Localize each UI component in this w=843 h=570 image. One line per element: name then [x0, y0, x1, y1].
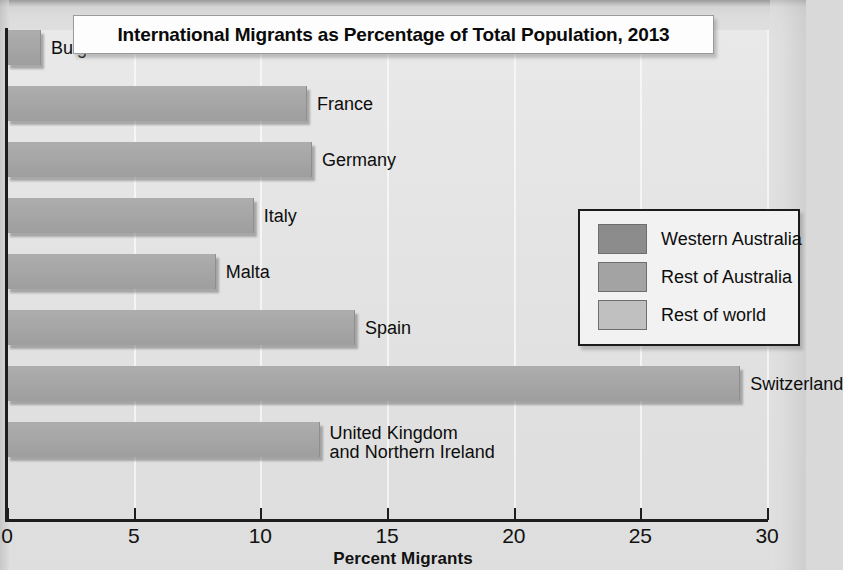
legend-swatch-3 [598, 300, 647, 330]
bar-label-germany: Germany [322, 151, 396, 170]
bar-spain [7, 310, 355, 345]
bar-label-malta: Malta [226, 263, 270, 282]
x-tick-15 [387, 508, 389, 520]
bar-label-united-kingdom-and-northern-ireland: United Kingdom and Northern Ireland [330, 424, 495, 462]
page-title: International Migrants as Percentage of … [117, 24, 669, 46]
gridline-20 [514, 30, 516, 520]
bar-label-spain: Spain [365, 319, 411, 338]
bar-united-kingdom-and-northern-ireland [7, 422, 320, 457]
legend-label-3: Rest of world [661, 305, 766, 326]
x-tick-25 [640, 508, 642, 520]
x-tick-label-20: 20 [502, 524, 525, 548]
x-tick-5 [134, 508, 136, 520]
bar-label-switzerland: Switzerland [750, 375, 843, 394]
x-axis-title: Percent Migrants [0, 549, 806, 569]
legend-label-1: Western Australia [661, 229, 802, 250]
x-tick-10 [260, 508, 262, 520]
legend-swatch-1 [598, 224, 647, 254]
x-tick-30 [767, 508, 769, 520]
bar-label-italy: Italy [264, 207, 297, 226]
chart-legend: Western AustraliaRest of AustraliaRest o… [578, 209, 800, 346]
x-tick-label-15: 15 [376, 524, 399, 548]
bar-germany [7, 142, 312, 177]
x-tick-label-10: 10 [249, 524, 272, 548]
legend-item-rest-of-world: Rest of world [598, 296, 798, 334]
x-tick-label-5: 5 [128, 524, 139, 548]
bar-switzerland [7, 366, 740, 401]
legend-item-western-australia: Western Australia [598, 220, 798, 258]
x-tick-label-0: 0 [1, 524, 12, 548]
scan-edge-top [0, 0, 806, 7]
bar-italy [7, 198, 254, 233]
legend-label-2: Rest of Australia [661, 267, 792, 288]
legend-swatch-2 [598, 262, 647, 292]
legend-item-rest-of-australia: Rest of Australia [598, 258, 798, 296]
y-axis-line [5, 28, 8, 520]
x-tick-label-25: 25 [629, 524, 652, 548]
x-tick-20 [514, 508, 516, 520]
bar-malta [7, 254, 216, 289]
x-tick-label-30: 30 [756, 524, 779, 548]
bar-france [7, 86, 307, 121]
chart-title-box: International Migrants as Percentage of … [73, 15, 714, 54]
bar-bulgaria [7, 30, 41, 65]
x-tick-0 [7, 508, 9, 520]
bar-label-france: France [317, 95, 373, 114]
